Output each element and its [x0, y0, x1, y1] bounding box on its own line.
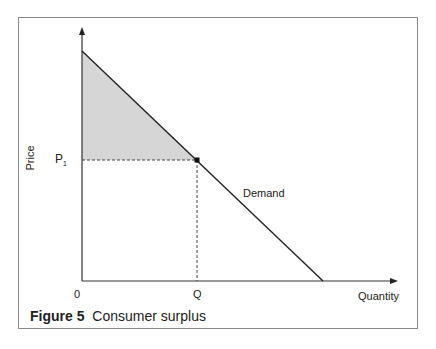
figure-caption: Figure 5 Consumer surplus: [30, 308, 206, 324]
y-axis-label: Price: [24, 140, 36, 176]
x-axis-label: Quantity: [358, 290, 399, 302]
demand-curve: [82, 51, 323, 281]
origin-label: 0: [74, 288, 80, 300]
x-axis-arrow-icon: [390, 278, 398, 284]
figure-number: Figure 5: [30, 308, 84, 324]
demand-label: Demand: [243, 187, 285, 199]
p1-subscript: 1: [63, 160, 67, 167]
p1-main: P: [55, 152, 63, 166]
figure-title: Consumer surplus: [92, 308, 206, 324]
equilibrium-point: [195, 158, 200, 163]
p1-tick-label: P1: [55, 152, 67, 167]
y-axis-arrow-icon: [79, 27, 85, 35]
q-tick-label: Q: [193, 288, 202, 300]
